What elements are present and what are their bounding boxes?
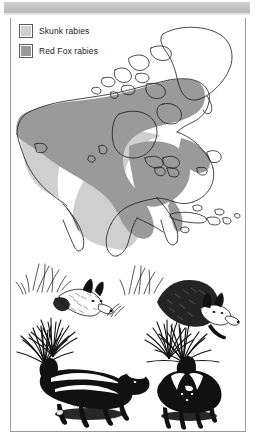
red-fox-left-illustration xyxy=(16,264,124,356)
scan-header-shadow xyxy=(4,13,250,15)
legend-swatch-red-fox-icon xyxy=(19,44,33,58)
illustration-svg xyxy=(11,246,245,430)
red-fox-right-illustration xyxy=(120,266,239,358)
animal-illustrations xyxy=(11,246,245,430)
legend-swatch-skunk-icon xyxy=(19,24,33,38)
grass-right xyxy=(120,266,163,295)
map-legend: Skunk rabies Red Fox rabies xyxy=(19,22,139,62)
grass-clump-right xyxy=(145,320,193,358)
legend-label-red-fox: Red Fox rabies xyxy=(39,46,98,56)
skunk-left-illustration xyxy=(17,326,150,428)
figure-page: Skunk rabies Red Fox rabies xyxy=(0,0,256,444)
legend-item-skunk: Skunk rabies xyxy=(19,22,139,39)
grass-left xyxy=(16,264,71,294)
scan-header-bar xyxy=(4,2,250,13)
legend-item-red-fox: Red Fox rabies xyxy=(19,42,139,59)
figure-panel: Skunk rabies Red Fox rabies xyxy=(10,18,246,432)
legend-label-skunk: Skunk rabies xyxy=(39,26,89,36)
